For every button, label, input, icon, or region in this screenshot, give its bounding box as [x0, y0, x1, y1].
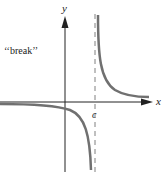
y-axis-label: y: [61, 2, 67, 14]
break-annotation: ‘‘break’’: [4, 45, 38, 56]
curve-left-branch: [0, 104, 91, 170]
y-axis-arrow-icon: [62, 16, 69, 28]
curve-right-branch: [98, 15, 149, 97]
graph: y x c ‘‘break’’: [0, 0, 162, 179]
asymptote-label: c: [92, 109, 97, 120]
x-axis-label: x: [155, 95, 161, 107]
x-axis-arrow-icon: [141, 99, 153, 106]
